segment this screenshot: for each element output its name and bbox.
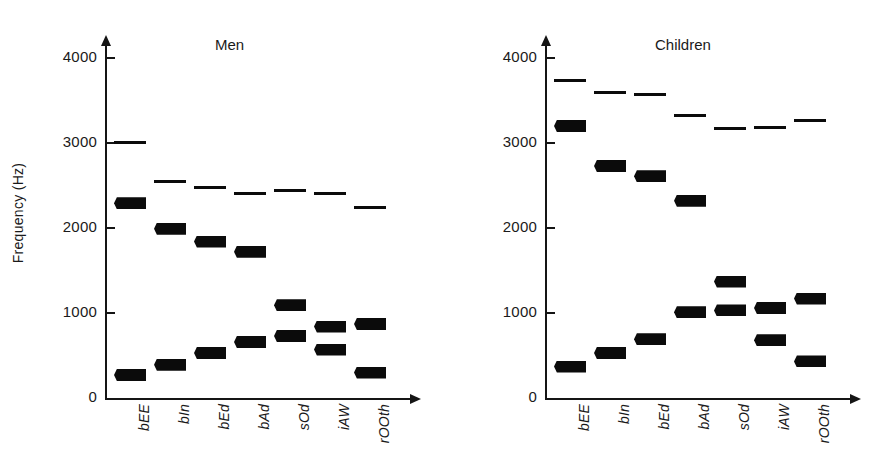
y-axis-tick-label: 2000 (475, 218, 537, 235)
y-axis-arrow-icon (541, 35, 551, 46)
formant-mark-f2 (754, 302, 786, 314)
formant-mark-f1 (594, 347, 626, 359)
x-axis-category-label: bAd (696, 404, 712, 430)
formant-mark-f1 (674, 306, 706, 318)
y-axis-tick-label: 1000 (35, 303, 97, 320)
formant-mark-f2 (674, 195, 706, 207)
formant-mark-f2 (314, 321, 346, 333)
panel-title-men: Men (215, 36, 244, 53)
panel-title-children: Children (655, 36, 711, 53)
y-axis-tick (106, 227, 115, 229)
x-axis-category-label: rOOth (816, 404, 832, 443)
y-axis-tick-label: 3000 (35, 133, 97, 150)
x-axis-category-label: iAW (336, 404, 352, 430)
formant-mark-f3 (754, 126, 786, 129)
x-axis-category-label: bIn (176, 404, 192, 424)
y-axis-tick (106, 57, 115, 59)
formant-mark-f2 (634, 170, 666, 182)
y-axis-tick-label: 4000 (35, 48, 97, 65)
formant-mark-f1 (234, 336, 266, 348)
formant-mark-f2 (234, 246, 266, 258)
formant-mark-f3 (234, 192, 266, 195)
y-axis-line (545, 46, 547, 400)
y-axis-line (105, 46, 107, 400)
formant-mark-f2 (354, 318, 386, 330)
panel-men: 01000200030004000Frequency (Hz)MenbEEbIn… (0, 0, 440, 471)
x-axis-line (545, 398, 850, 400)
formant-mark-f3 (114, 141, 146, 144)
x-axis-category-label: sOd (296, 404, 312, 430)
x-axis-category-label: bEE (576, 404, 592, 431)
y-axis-tick (546, 142, 555, 144)
formant-mark-f1 (634, 333, 666, 345)
y-axis-tick-label: 3000 (475, 133, 537, 150)
formant-mark-f1 (354, 367, 386, 379)
x-axis-line (105, 398, 410, 400)
x-axis-category-label: bIn (616, 404, 632, 424)
formant-mark-f2 (594, 160, 626, 172)
y-axis-arrow-icon (101, 35, 111, 46)
x-axis-category-label: bEE (136, 404, 152, 431)
formant-mark-f3 (594, 91, 626, 94)
formant-mark-f2 (554, 120, 586, 132)
y-axis-tick-label: 2000 (35, 218, 97, 235)
formant-mark-f1 (794, 355, 826, 367)
formant-mark-f1 (114, 369, 146, 381)
y-axis-tick-label: 1000 (475, 303, 537, 320)
formant-mark-f1 (274, 330, 306, 342)
formant-mark-f2 (194, 236, 226, 248)
formant-mark-f1 (194, 347, 226, 359)
formant-mark-f2 (714, 276, 746, 288)
y-axis-tick-label: 0 (35, 388, 97, 405)
formant-mark-f3 (274, 189, 306, 192)
formant-mark-f1 (754, 334, 786, 346)
x-axis-arrow-icon (410, 394, 421, 404)
formant-mark-f3 (714, 127, 746, 130)
x-axis-arrow-icon (850, 394, 861, 404)
formant-mark-f2 (114, 197, 146, 209)
formant-mark-f1 (314, 344, 346, 356)
x-axis-category-label: bEd (216, 404, 232, 430)
formant-mark-f3 (194, 186, 226, 189)
x-axis-category-label: rOOth (376, 404, 392, 443)
x-axis-category-label: iAW (776, 404, 792, 430)
x-axis-category-label: bAd (256, 404, 272, 430)
formant-mark-f2 (274, 299, 306, 311)
y-axis-tick (546, 227, 555, 229)
formant-mark-f3 (154, 180, 186, 183)
y-axis-title: Frequency (Hz) (10, 133, 26, 293)
formant-mark-f1 (154, 359, 186, 371)
formant-mark-f1 (714, 304, 746, 316)
formant-mark-f3 (674, 114, 706, 117)
formant-mark-f2 (154, 223, 186, 235)
y-axis-tick-label: 4000 (475, 48, 537, 65)
formant-mark-f2 (794, 293, 826, 305)
formant-mark-f3 (554, 79, 586, 82)
y-axis-tick (546, 312, 555, 314)
x-axis-category-label: sOd (736, 404, 752, 430)
formant-mark-f3 (634, 93, 666, 96)
y-axis-tick (546, 57, 555, 59)
panel-children: 01000200030004000ChildrenbEEbInbEdbAdsOd… (440, 0, 880, 471)
formant-mark-f3 (354, 206, 386, 209)
formant-frequency-figure: 01000200030004000Frequency (Hz)MenbEEbIn… (0, 0, 881, 471)
y-axis-tick-label: 0 (475, 388, 537, 405)
x-axis-category-label: bEd (656, 404, 672, 430)
formant-mark-f3 (794, 119, 826, 122)
formant-mark-f3 (314, 192, 346, 195)
y-axis-tick (106, 312, 115, 314)
formant-mark-f1 (554, 361, 586, 373)
